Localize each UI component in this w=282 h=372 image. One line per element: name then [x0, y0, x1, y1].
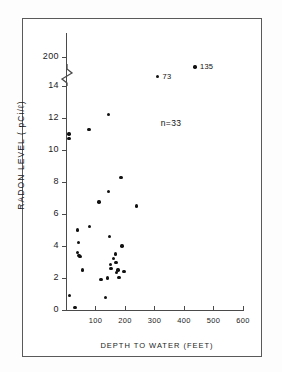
- y-axis-tick-label: 0: [33, 304, 59, 314]
- data-point-label: 73: [162, 72, 171, 81]
- data-point: [68, 294, 71, 297]
- data-point: [119, 176, 122, 179]
- data-point: [156, 75, 159, 78]
- y-axis-title: RADON LEVEL ( pCi/ℓ): [16, 90, 26, 220]
- data-point: [77, 241, 80, 244]
- y-axis-tick: [62, 278, 67, 279]
- sample-size-annotation: n=33: [161, 118, 182, 128]
- axis-break-icon: [60, 64, 74, 86]
- data-point: [193, 65, 196, 68]
- data-point: [114, 252, 117, 255]
- data-point: [109, 267, 112, 270]
- data-point: [112, 257, 115, 260]
- x-axis-tick: [243, 306, 244, 311]
- data-point: [107, 190, 110, 193]
- data-point: [116, 268, 119, 271]
- data-point: [108, 235, 111, 238]
- figure-page: RADON LEVEL ( pCi/ℓ) DEPTH TO WATER (FEE…: [0, 0, 282, 372]
- data-point: [104, 296, 107, 299]
- y-axis-tick: [62, 118, 67, 119]
- data-point: [109, 263, 112, 266]
- data-point: [67, 132, 70, 135]
- data-point: [97, 200, 100, 203]
- data-point: [122, 270, 125, 273]
- x-axis-tick-label: 500: [199, 316, 229, 325]
- x-axis-tick: [95, 306, 96, 311]
- data-point: [117, 276, 120, 279]
- data-point: [76, 228, 79, 231]
- y-axis-tick-label: 14: [33, 80, 59, 90]
- data-point: [107, 113, 110, 116]
- x-axis-tick: [184, 306, 185, 311]
- y-axis-tick: [62, 246, 67, 247]
- y-axis-tick-label: 200: [33, 51, 59, 61]
- y-axis-tick-label: 10: [33, 144, 59, 154]
- data-point-label: 135: [200, 62, 213, 71]
- data-point: [114, 261, 117, 264]
- x-axis-tick-label: 300: [140, 316, 170, 325]
- y-axis-tick-label: 4: [33, 240, 59, 250]
- y-axis-tick: [62, 86, 67, 87]
- data-point: [99, 278, 102, 281]
- y-axis-tick: [62, 214, 67, 215]
- y-axis-tick-label: 8: [33, 176, 59, 186]
- y-axis-tick-label: 2: [33, 272, 59, 282]
- data-point: [88, 225, 91, 228]
- data-point: [78, 255, 81, 258]
- data-point: [73, 306, 76, 309]
- x-axis-tick-label: 100: [81, 316, 111, 325]
- data-point: [87, 128, 90, 131]
- x-axis-title: DEPTH TO WATER (FEET): [62, 341, 252, 350]
- data-point: [81, 268, 84, 271]
- data-point: [120, 244, 123, 247]
- data-point: [135, 204, 138, 207]
- y-axis-tick: [62, 310, 67, 311]
- y-axis-tick-label: 6: [33, 208, 59, 218]
- data-point: [67, 137, 70, 140]
- x-axis-tick: [213, 306, 214, 311]
- x-axis-tick: [125, 306, 126, 311]
- x-axis-tick: [154, 306, 155, 311]
- y-axis-tick: [62, 182, 67, 183]
- data-point: [106, 276, 109, 279]
- x-axis-tick-label: 600: [228, 316, 258, 325]
- y-axis-tick-label: 12: [33, 112, 59, 122]
- y-axis-tick: [62, 57, 67, 58]
- x-axis-tick-label: 200: [110, 316, 140, 325]
- x-axis-tick-label: 400: [169, 316, 199, 325]
- scatter-plot: RADON LEVEL ( pCi/ℓ) DEPTH TO WATER (FEE…: [0, 0, 282, 372]
- y-axis-tick: [62, 150, 67, 151]
